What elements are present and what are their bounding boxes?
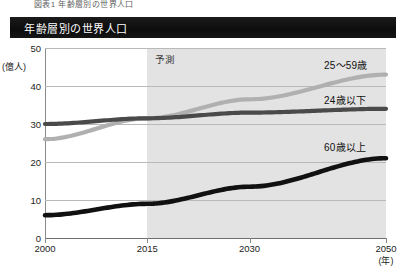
y-tick-40: 40 <box>30 81 41 92</box>
x-tick-2030: 2030 <box>239 243 260 254</box>
y-tick-50: 50 <box>30 43 41 54</box>
series-label-25-59: 25〜59歳 <box>324 57 367 72</box>
chart-figure: 図表1 年齢層別の世界人口 年齢層別の世界人口 50403020100 (億人)… <box>0 0 406 272</box>
x-tick-2050: 2050 <box>375 243 396 254</box>
y-tick-20: 20 <box>30 157 41 168</box>
y-axis-tick-column: 50403020100 <box>0 48 41 238</box>
chart-title-bar: 年齢層別の世界人口 <box>10 17 396 38</box>
gridline-0 <box>45 238 386 239</box>
series-label-24-under: 24歳以下 <box>324 92 366 107</box>
line-25-59 <box>45 75 386 140</box>
figure-caption: 図表1 年齢層別の世界人口 <box>34 0 134 9</box>
x-axis-unit-label: (年) <box>379 254 394 267</box>
y-tick-0: 0 <box>36 233 41 244</box>
forecast-annotation: 予測 <box>155 52 175 66</box>
page-title: 年齢層別の世界人口 <box>24 20 128 36</box>
line-60-over <box>45 158 386 215</box>
line-24-under <box>45 109 386 124</box>
x-tick-2000: 2000 <box>34 243 55 254</box>
y-axis-unit-label: (億人) <box>2 60 26 73</box>
x-tick-2015: 2015 <box>137 243 158 254</box>
y-tick-30: 30 <box>30 119 41 130</box>
y-tick-10: 10 <box>30 195 41 206</box>
series-label-60-over: 60歳以上 <box>324 139 366 154</box>
